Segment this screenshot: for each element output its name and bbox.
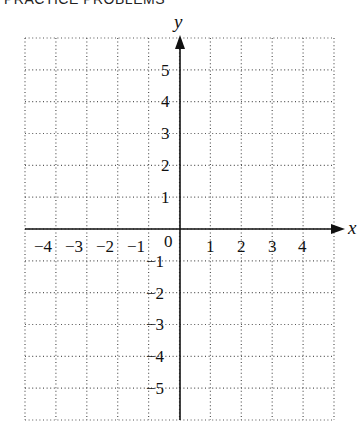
x-tick-label: −2	[96, 238, 114, 255]
y-tick-label: −5	[146, 380, 164, 397]
y-axis-label: y	[174, 11, 182, 33]
x-tick-label: 3	[268, 238, 277, 255]
y-tick-label: 2	[161, 157, 170, 174]
x-tick-label: −3	[65, 238, 83, 255]
y-tick-label: 4	[161, 93, 170, 110]
y-axis-arrow-icon	[175, 35, 185, 49]
y-tick-label: 3	[161, 125, 170, 142]
x-axis-arrow-icon	[331, 224, 345, 234]
y-tick-label: 1	[161, 189, 170, 206]
y-tick-label: −2	[146, 285, 164, 302]
x-tick-label: −4	[34, 238, 52, 255]
y-tick-label: −1	[146, 253, 164, 270]
y-tick-label: −4	[146, 348, 164, 365]
x-tick-label: −1	[127, 238, 145, 255]
coordinate-grid	[0, 0, 362, 442]
x-tick-label: 2	[237, 238, 246, 255]
x-tick-label: 4	[298, 238, 307, 255]
x-axis-label: x	[348, 217, 356, 239]
y-tick-label: 5	[161, 62, 170, 79]
origin-label: 0	[164, 233, 173, 250]
y-tick-label: −3	[146, 316, 164, 333]
x-tick-label: 1	[206, 238, 215, 255]
